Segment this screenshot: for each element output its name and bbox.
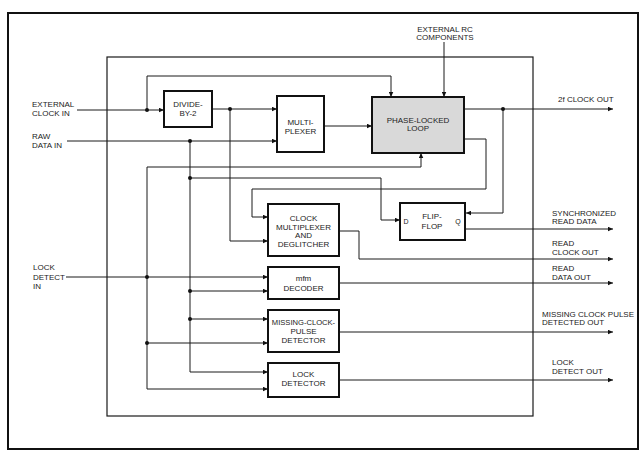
junction-dot <box>145 275 149 279</box>
block-label: mfm <box>296 274 312 283</box>
block-flip-flop: FLIP- FLOP D Q <box>400 203 465 240</box>
label-line: READ <box>552 264 574 273</box>
label-line: CLOCK OUT <box>552 248 599 257</box>
block-lock-detector: LOCK DETECTOR <box>268 363 339 397</box>
output-label-read-data-out: READ DATA OUT <box>552 264 591 282</box>
output-label-read-clock-out: READ CLOCK OUT <box>552 239 599 257</box>
block-label: DETECTOR <box>282 336 326 345</box>
wire-raw-data-bus <box>190 141 268 372</box>
block-label: FLIP- <box>422 212 442 221</box>
junction-dot <box>145 108 149 112</box>
block-label: DECODER <box>283 284 323 293</box>
block-missing-clock-pulse-detector: MISSING-CLOCK- PULSE DETECTOR <box>268 310 339 352</box>
label-line: COMPONENTS <box>416 33 473 42</box>
block-label: LOCK <box>293 370 315 379</box>
block-label: FLOP <box>422 222 443 231</box>
label-line: DATA IN <box>32 141 62 150</box>
block-diagram: DIVIDE- BY-2 MULTI- PLEXER PHASE-LOCKED … <box>0 0 644 454</box>
label-line: DETECT <box>33 273 65 282</box>
block-label: BY-2 <box>179 109 197 118</box>
pin-q-label: Q <box>455 218 461 226</box>
label-line: 2f CLOCK OUT <box>558 95 614 104</box>
label-line: DETECTED OUT <box>542 318 604 327</box>
block-label: DEGLITCHER <box>278 240 330 249</box>
junction-dot <box>145 341 149 345</box>
block-label: MISSING-CLOCK- <box>272 318 336 327</box>
block-mfm-decoder: mfm DECODER <box>268 267 339 299</box>
block-label: PLEXER <box>285 127 317 136</box>
junction-dot <box>188 176 192 180</box>
pin-d-label: D <box>403 218 408 225</box>
block-phase-locked-loop: PHASE-LOCKED LOOP <box>372 97 464 153</box>
label-line: READ DATA <box>552 217 597 226</box>
input-label-external-rc-components: EXTERNAL RC COMPONENTS <box>416 25 473 42</box>
block-box <box>268 267 339 299</box>
label-line: DETECT OUT <box>552 367 603 376</box>
input-label-raw-data-in: RAW DATA IN <box>32 132 62 150</box>
label-line: EXTERNAL <box>32 100 75 109</box>
block-clock-multiplexer-and-deglitcher: CLOCK MULTIPLEXER AND DEGLITCHER <box>268 204 339 256</box>
block-label: LOOP <box>407 124 429 133</box>
label-line: CLOCK IN <box>32 109 70 118</box>
junction-dot <box>188 139 192 143</box>
junction-dot <box>501 107 505 111</box>
output-label-lock-detect-out: LOCK DETECT OUT <box>552 358 603 376</box>
wire-divider-to-clock-mux <box>230 109 268 241</box>
label-line: LOCK <box>33 263 55 272</box>
wire-pll-to-flipflop-clock <box>466 109 503 213</box>
block-divide-by-2: DIVIDE- BY-2 <box>164 91 212 127</box>
junction-dot <box>188 317 192 321</box>
block-multiplexer: MULTI- PLEXER <box>277 96 324 152</box>
block-label: PULSE <box>290 327 316 336</box>
junction-dot <box>188 289 192 293</box>
label-line: RAW <box>32 132 51 141</box>
input-label-lock-detect-in: LOCK DETECT IN <box>33 263 65 291</box>
label-line: LOCK <box>552 358 574 367</box>
label-line: READ <box>552 239 574 248</box>
output-label-missing-clock-pulse-detected-out: MISSING CLOCK PULSE DETECTED OUT <box>542 310 634 327</box>
output-label-synchronized-read-data: SYNCHRONIZED READ DATA <box>552 209 616 226</box>
block-label: MULTI- <box>287 118 313 127</box>
output-label-2f-clock-out: 2f CLOCK OUT <box>558 95 614 104</box>
junction-dot <box>228 107 232 111</box>
label-line: DATA OUT <box>552 273 591 282</box>
block-label: DIVIDE- <box>173 100 203 109</box>
label-line: IN <box>33 282 41 291</box>
block-label: DETECTOR <box>282 379 326 388</box>
input-label-external-clock-in: EXTERNAL CLOCK IN <box>32 100 75 118</box>
